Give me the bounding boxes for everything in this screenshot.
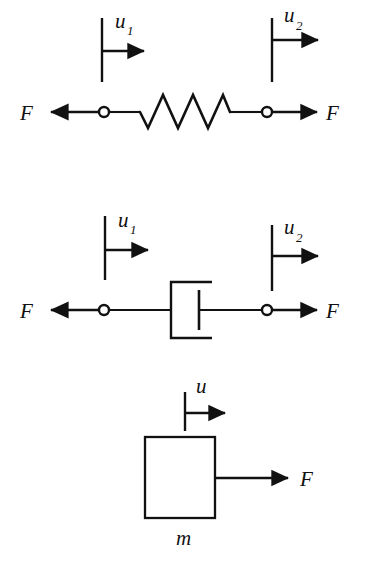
damper-u1-marker: u 1	[105, 208, 148, 280]
spring-u2-marker: u 2	[272, 3, 318, 82]
damper-u2-label: u	[284, 215, 295, 239]
damper-left-pin	[99, 305, 109, 315]
mechanical-elements-diagram: u 1 u 2 F F	[0, 0, 366, 584]
damper-element-group: u 1 u 2 F	[19, 208, 339, 338]
mass-u-label: u	[196, 374, 207, 398]
damper-u2-marker: u 2	[272, 215, 318, 291]
spring-u2-subscript: 2	[296, 18, 303, 33]
spring-force-right-label: F	[325, 101, 339, 125]
damper-u1-label: u	[118, 208, 129, 232]
spring-force-left-label: F	[19, 101, 33, 125]
damper-force-left-label: F	[19, 299, 33, 323]
damper-right-pin	[262, 305, 272, 315]
damper-u1-subscript: 1	[130, 222, 137, 237]
spring-right-pin	[262, 107, 272, 117]
figure-root: u 1 u 2 F F	[0, 0, 366, 584]
mass-label: m	[176, 526, 191, 550]
mass-force-label: F	[299, 467, 313, 491]
spring-element-group: u 1 u 2 F F	[19, 3, 339, 128]
spring-u1-label: u	[115, 9, 126, 33]
damper-u2-subscript: 2	[296, 230, 303, 245]
spring-u1-marker: u 1	[102, 9, 144, 82]
mass-block	[145, 437, 215, 518]
spring-u1-subscript: 1	[127, 23, 134, 38]
mass-element-group: u F m	[145, 374, 313, 550]
spring-u2-label: u	[284, 3, 295, 27]
spring-left-pin	[99, 107, 109, 117]
spring-coil	[140, 95, 230, 128]
mass-u-marker: u	[185, 374, 225, 431]
damper-force-right-label: F	[325, 299, 339, 323]
